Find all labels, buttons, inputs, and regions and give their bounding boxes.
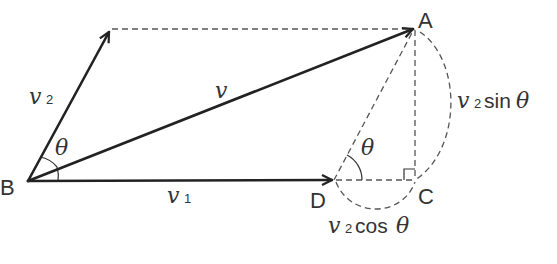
cos-label-func: cos xyxy=(355,214,388,237)
point-label-a: A xyxy=(418,8,433,33)
vector-diagram: B A D C v 2 v v 1 θ θ v 2 sin θ v 2 cos … xyxy=(0,0,557,264)
vector-v-arrow xyxy=(28,29,413,181)
angle-label-b: θ xyxy=(55,135,68,160)
angle-label-d: θ xyxy=(361,135,374,160)
label-v2-cos-theta: v 2 cos θ xyxy=(328,213,409,238)
brace-curve-sin xyxy=(415,32,451,180)
vector-v1-arrow xyxy=(28,180,332,181)
angle-arc-d xyxy=(347,155,362,180)
label-v2-sin-theta: v 2 sin θ xyxy=(457,88,529,113)
label-v2-symbol: v xyxy=(29,84,42,109)
label-v2-subscript: 2 xyxy=(46,92,53,107)
label-v2: v 2 xyxy=(29,84,53,109)
label-v-symbol: v xyxy=(215,78,228,103)
brace-curve-cos xyxy=(336,182,415,209)
cos-label-angle: θ xyxy=(396,213,409,238)
cos-label-symbol: v xyxy=(328,213,341,238)
label-v1-symbol: v xyxy=(167,183,180,208)
point-label-d: D xyxy=(310,188,326,213)
sin-label-func: sin xyxy=(484,89,511,112)
label-v1-subscript: 1 xyxy=(184,191,191,206)
sin-label-symbol: v xyxy=(457,88,470,113)
right-angle-marker xyxy=(404,169,415,180)
cos-label-subscript: 2 xyxy=(345,221,352,236)
label-v: v xyxy=(215,78,228,103)
sin-label-angle: θ xyxy=(516,88,529,113)
point-label-c: C xyxy=(418,184,434,209)
point-label-b: B xyxy=(0,175,15,200)
sin-label-subscript: 2 xyxy=(474,96,481,111)
label-v1: v 1 xyxy=(167,183,191,208)
